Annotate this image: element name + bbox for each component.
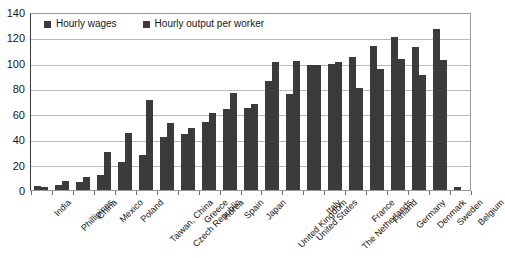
x-axis-label: Spain <box>243 198 266 221</box>
legend-swatch-icon <box>143 21 150 28</box>
x-axis-label: China <box>96 198 119 221</box>
legend-swatch-icon <box>44 21 51 28</box>
chart-legend: Hourly wages Hourly output per worker <box>44 19 264 29</box>
legend-entry-hourly-wages: Hourly wages <box>44 19 117 29</box>
x-axis-label: India <box>53 198 73 218</box>
legend-entry-hourly-output-per-worker: Hourly output per worker <box>143 19 265 29</box>
legend-label: Hourly wages <box>56 19 117 29</box>
legend-label: Hourly output per worker <box>155 19 265 29</box>
x-axis-label: Japan <box>264 198 288 222</box>
